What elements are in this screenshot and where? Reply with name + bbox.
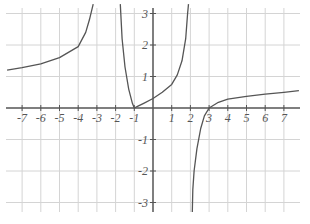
- x-tick-label: -7: [17, 111, 28, 125]
- y-tick-label: -2: [138, 164, 148, 178]
- x-tick-label: 5: [244, 111, 250, 125]
- x-tick-label: 7: [281, 111, 288, 125]
- chart-container: -7-6-5-4-3-2-11234567321-1-2-3: [0, 0, 310, 224]
- function-graph: -7-6-5-4-3-2-11234567321-1-2-3: [0, 0, 310, 224]
- x-tick-label: -2: [111, 111, 121, 125]
- x-tick-label: -4: [73, 111, 83, 125]
- y-tick-label: -1: [138, 133, 148, 147]
- x-tick-label: -3: [92, 111, 102, 125]
- axes: [6, 8, 300, 212]
- x-tick-label: 6: [262, 111, 268, 125]
- x-tick-label: -1: [129, 111, 139, 125]
- branch-middle-curve: [120, 4, 188, 108]
- y-tick-label: 3: [141, 7, 148, 21]
- y-tick-label: 1: [142, 70, 148, 84]
- x-tick-label: -5: [55, 111, 65, 125]
- branch-left-curve: [7, 4, 93, 70]
- y-tick-label: 2: [142, 38, 148, 52]
- x-tick-label: -6: [36, 111, 46, 125]
- branch-right-curve: [192, 91, 299, 212]
- y-tick-label: -3: [138, 196, 148, 210]
- x-tick-label: 4: [225, 111, 231, 125]
- x-tick-label: 1: [169, 111, 175, 125]
- x-tick-label: 2: [187, 111, 193, 125]
